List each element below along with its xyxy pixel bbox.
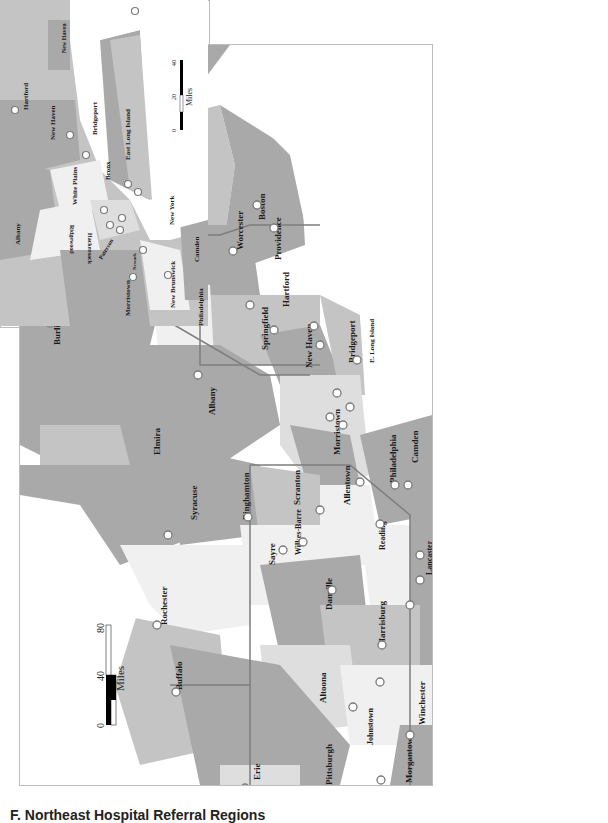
label-allentown: Allentown (342, 465, 352, 505)
inset-label-white-plains: White Plains (71, 166, 79, 205)
inset-map-canvas: 0 20 40 Miles Hartford New Haven New Hav… (0, 0, 208, 326)
label-worcester: Worcester (235, 211, 245, 250)
inset-label-ridgewood: Ridgewood (69, 225, 75, 254)
label-lancaster: Lancaster (425, 540, 432, 575)
label-philadelphia: Philadelphia (388, 434, 398, 483)
inset-label-camden: Camden (193, 237, 201, 262)
inset-label-hartford: Hartford (22, 83, 30, 110)
inset-label-bridgeport: Bridgeport (91, 101, 99, 135)
label-winchester: Winchester (417, 681, 427, 725)
label-altoona: Altoona (318, 672, 328, 703)
inset-scale-tick-0: 0 (171, 129, 177, 132)
inset-scale-unit: Miles (185, 88, 194, 106)
scale-tick-0: 0 (95, 723, 106, 728)
inset-label-newark: Newark (132, 253, 137, 270)
scale-bar-inset (180, 60, 183, 130)
inset-label-new-haven: New Haven (49, 105, 57, 140)
inset-map-nyc: 0 20 40 Miles Hartford New Haven New Hav… (0, 0, 210, 328)
inset-label-morristown: Morristown (124, 280, 132, 316)
label-syracuse: Syracuse (189, 485, 199, 520)
inset-label-east-long-island: East Long Island (124, 109, 132, 160)
label-e-long-island: E. Long Island (368, 319, 376, 363)
map-caption: F. Northeast Hospital Referral Regions (10, 807, 265, 823)
inset-label-new-york: New York (168, 195, 176, 225)
label-johnstown: Johnstown (366, 708, 375, 745)
inset-label-hackensack: Hackensack (87, 233, 93, 265)
inset-label-bronx: Bronx (104, 161, 112, 180)
label-pittsburgh: Pittsburgh (324, 744, 334, 785)
label-harrisburg: Harrisburg (377, 601, 387, 645)
inset-scale-tick-20: 20 (171, 94, 177, 100)
inset-scale-tick-40: 40 (171, 60, 177, 66)
inset-label-albany: Albany (14, 223, 22, 245)
label-elmira-north: Elmira (152, 428, 162, 455)
scale-tick-80: 80 (95, 623, 106, 633)
scale-unit: Miles (114, 666, 126, 691)
label-erie: Erie (252, 764, 262, 781)
label-wilkes-barre: Wilkes-Barre (294, 509, 303, 555)
label-scranton: Scranton (292, 470, 302, 505)
label-albany: Albany (207, 386, 217, 415)
label-buffalo: Buffalo (174, 661, 184, 690)
label-rochester: Rochester (159, 587, 169, 625)
label-camden: Camden (410, 430, 420, 463)
inset-label-philadelphia: Philadelphia (197, 288, 205, 326)
scale-tick-40: 40 (95, 671, 106, 681)
inset-label-new-brunswick: New Brunswick (169, 261, 177, 308)
label-springfield: Springfield (260, 307, 270, 350)
label-hartford: Hartford (281, 272, 291, 307)
inset-label-new-haven-east: New Haven (61, 23, 67, 53)
label-sayre: Sayre (267, 543, 277, 565)
label-morgantown: Morgantown (404, 733, 414, 783)
